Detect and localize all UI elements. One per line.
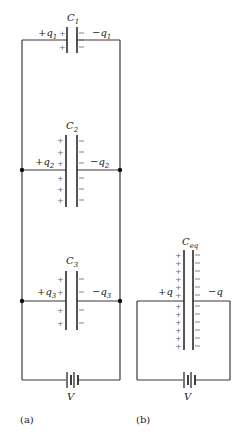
junction-node [20,299,24,303]
svg-text:+: + [59,43,66,52]
battery-icon [67,372,78,388]
battery-label-b: V [184,391,193,402]
panel-a-wires [22,40,120,380]
svg-text:+: + [57,319,64,328]
capacitor-c3: + + + + C3 +q3 −q3 [37,255,112,330]
svg-text:+q1: +q1 [38,27,57,41]
c2-minus-charge: −q [90,156,105,167]
capacitor-ceq: + + + + + + + + + + + + Ceq +q −q [158,236,223,351]
svg-text:+q3: +q3 [37,286,57,300]
ceq-minus-charge: −q [208,286,223,297]
svg-text:+q2: +q2 [35,156,55,170]
svg-text:+: + [175,291,182,300]
capacitor-c1: + + C1 +q1 −q1 [38,12,111,53]
battery-icon [184,372,195,388]
ceq-plus-charge: +q [158,286,173,297]
svg-text:+: + [57,196,64,205]
svg-text:−q2: −q2 [90,156,110,170]
svg-text:+: + [57,159,64,168]
capacitor-c2: + + + + + + C2 +q2 −q2 [35,120,110,207]
circuit-diagram: + + C1 +q1 −q1 + + + + + + C2 +q2 −q2 + … [0,0,240,436]
svg-text:+: + [57,148,64,157]
c3-minus-charge: −q [92,286,107,297]
svg-text:+: + [57,275,64,284]
caption-a: (a) [20,414,34,425]
svg-text:−q1: −q1 [92,27,111,41]
svg-text:−q3: −q3 [92,286,112,300]
junction-node [20,168,24,172]
c1-minus-charge: −q [92,27,107,38]
svg-text:C2: C2 [66,120,79,134]
junction-node [118,299,122,303]
svg-text:Ceq: Ceq [182,236,199,250]
svg-text:+: + [57,174,64,183]
c3-plus-charge: +q [37,286,52,297]
battery-label-a: V [67,391,76,402]
svg-text:+: + [57,288,64,297]
svg-text:+: + [59,29,66,38]
c2-plus-charge: +q [35,156,50,167]
svg-text:+: + [57,185,64,194]
svg-text:+: + [57,306,64,315]
junction-node [118,168,122,172]
c1-plus-charge: +q [38,27,53,38]
svg-text:C3: C3 [66,255,79,269]
caption-b: (b) [136,414,150,425]
svg-text:C1: C1 [67,12,79,26]
svg-text:+: + [57,136,64,145]
svg-text:+: + [175,342,182,351]
